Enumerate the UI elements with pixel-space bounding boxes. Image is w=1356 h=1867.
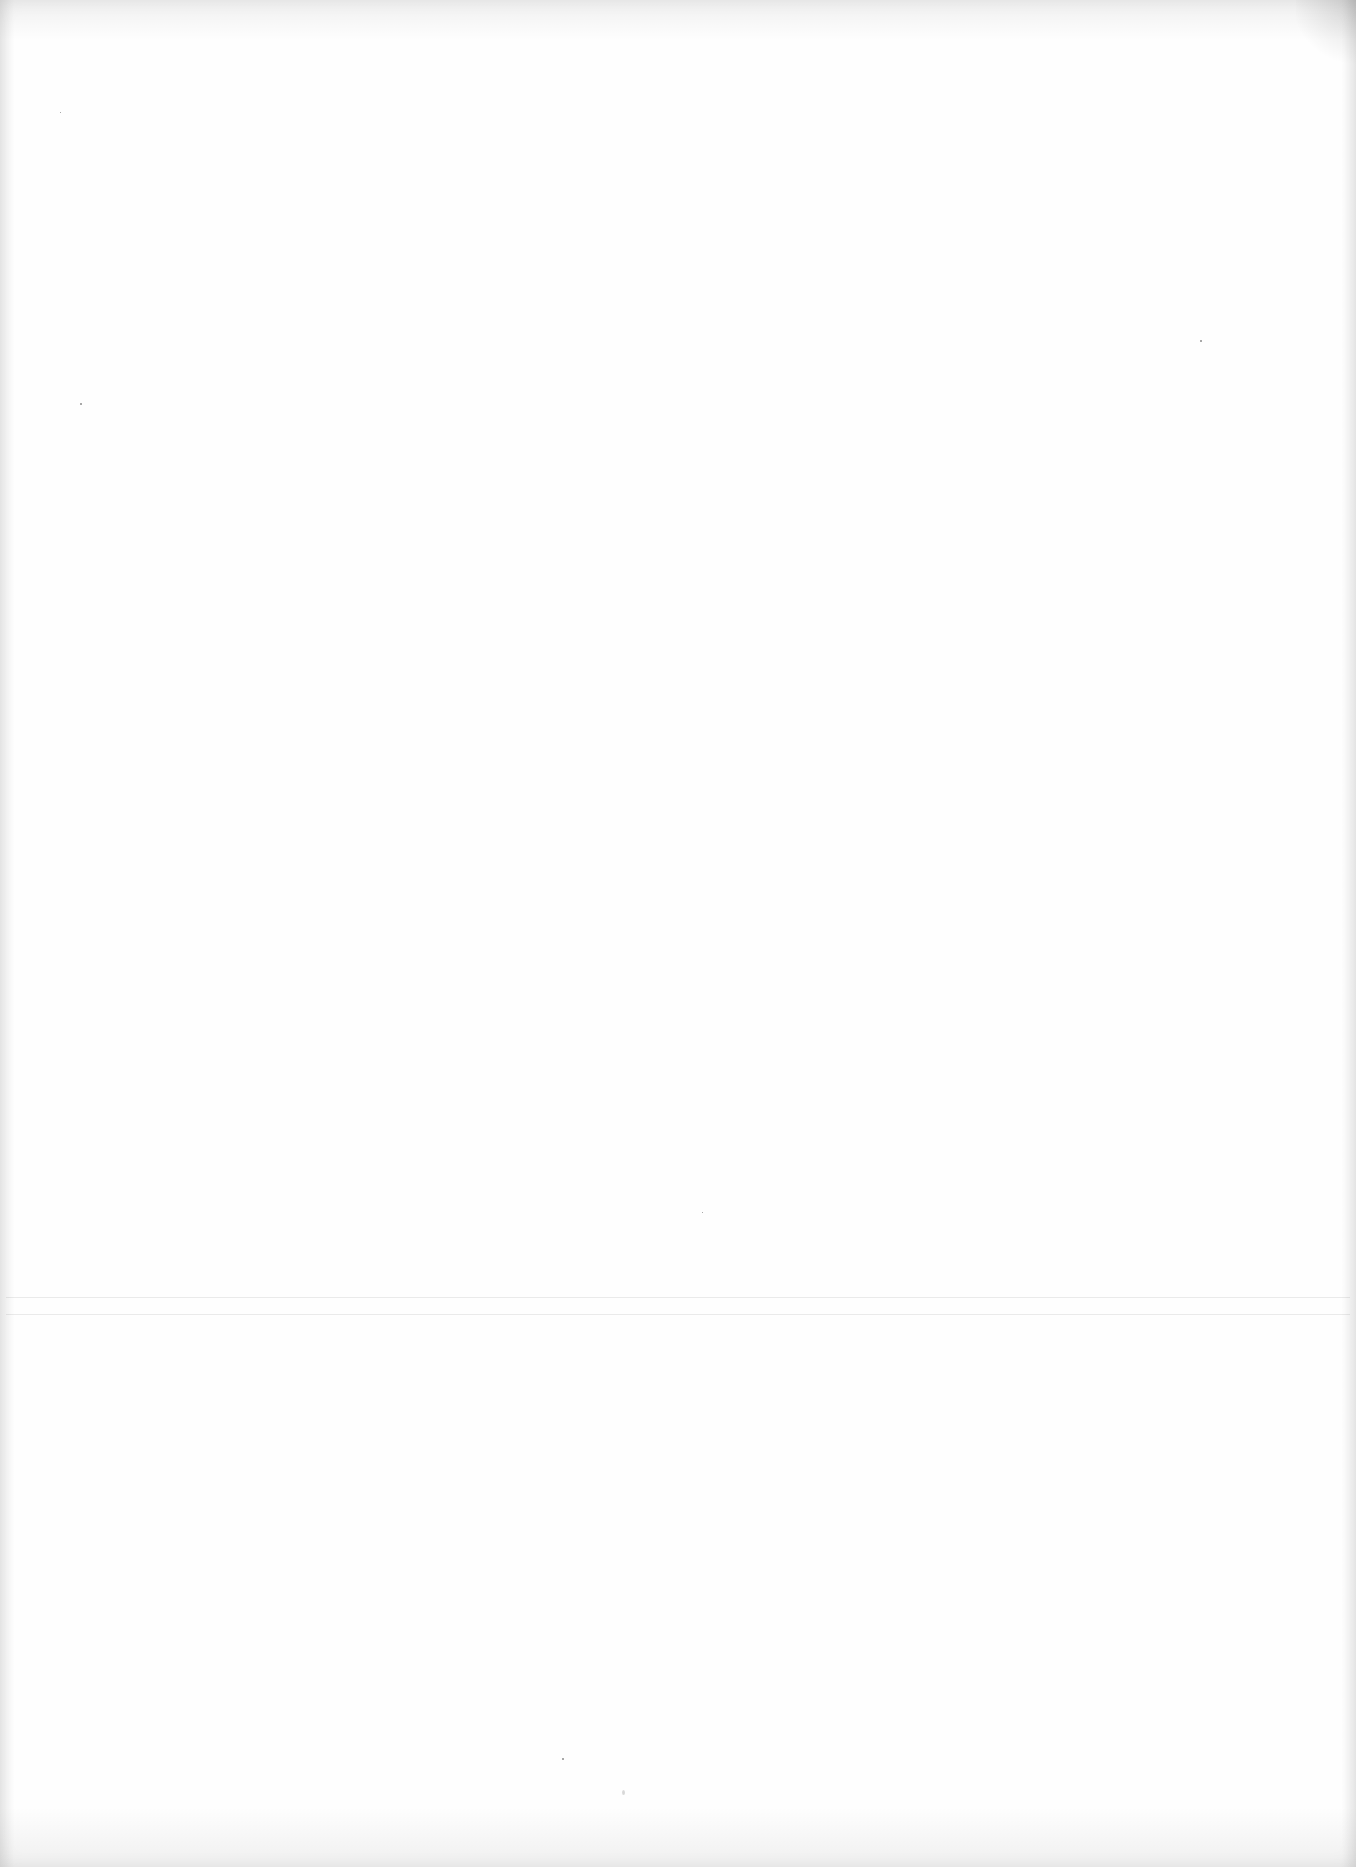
fold-crease-line: [6, 1314, 1350, 1315]
scan-speck: [80, 403, 82, 405]
corner-smudge: [1296, 0, 1356, 70]
scan-speck: [702, 1212, 703, 1213]
scan-edge-bottom: [0, 1807, 1356, 1867]
scan-edge-left: [0, 0, 14, 1867]
scan-speck: [60, 112, 61, 113]
blank-page: [0, 0, 1356, 1867]
scan-edge-right: [1342, 0, 1356, 1867]
scan-speck: [562, 1758, 564, 1760]
scan-speck: [622, 1790, 625, 1795]
fold-crease-line: [6, 1297, 1350, 1298]
scan-speck: [1200, 340, 1202, 342]
scan-edge-top: [0, 0, 1356, 40]
